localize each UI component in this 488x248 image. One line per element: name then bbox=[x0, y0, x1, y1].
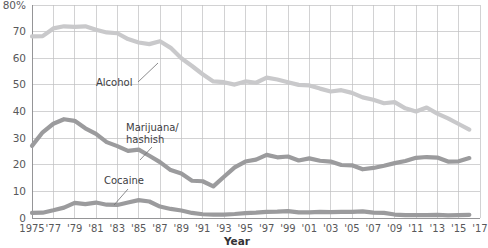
y-axis-tick-labels: 01020304050607080% bbox=[3, 0, 26, 224]
x-tick-label: '83 bbox=[110, 223, 125, 234]
leader-line bbox=[138, 63, 158, 82]
x-tick-label: '11 bbox=[408, 223, 423, 234]
x-tick-label: 1975 bbox=[19, 223, 44, 234]
y-tick-label: 80% bbox=[3, 0, 26, 11]
x-tick-label: '01 bbox=[302, 223, 317, 234]
y-tick-label: 40 bbox=[13, 105, 26, 117]
y-tick-label: 30 bbox=[13, 132, 26, 144]
y-tick-label: 70 bbox=[13, 25, 26, 37]
y-tick-label: 20 bbox=[13, 158, 26, 170]
x-tick-label: '87 bbox=[152, 223, 167, 234]
x-tick-label: '89 bbox=[174, 223, 189, 234]
y-tick-label: 60 bbox=[13, 52, 26, 64]
x-tick-label: '95 bbox=[238, 223, 253, 234]
x-tick-label: '97 bbox=[259, 223, 274, 234]
y-tick-label: 0 bbox=[19, 212, 26, 224]
x-tick-label: '09 bbox=[387, 223, 402, 234]
line-chart: 01020304050607080% 1975'77'79'81'83'85'8… bbox=[0, 0, 488, 248]
x-tick-label: '05 bbox=[344, 223, 359, 234]
y-tick-label: 50 bbox=[13, 78, 26, 90]
data-series-group bbox=[32, 26, 469, 215]
x-tick-label: '17 bbox=[472, 223, 487, 234]
series-line-cocaine bbox=[32, 200, 469, 215]
series-label-cocaine: Cocaine bbox=[104, 175, 144, 186]
x-tick-label: '81 bbox=[88, 223, 103, 234]
x-tick-label: '13 bbox=[430, 223, 445, 234]
series-label-alcohol: Alcohol bbox=[96, 77, 132, 88]
x-tick-label: '77 bbox=[46, 223, 61, 234]
x-tick-label: '03 bbox=[323, 223, 338, 234]
y-tick-label: 10 bbox=[13, 185, 26, 197]
series-line-marijuana-hashish bbox=[32, 119, 469, 186]
x-tick-label: '99 bbox=[280, 223, 295, 234]
series-annotations: AlcoholMarijuana/hashishCocaine bbox=[96, 63, 179, 205]
series-label-marijuana-hashish: Marijuana/ bbox=[126, 122, 179, 133]
x-tick-label: '85 bbox=[131, 223, 146, 234]
x-tick-label: '79 bbox=[67, 223, 82, 234]
x-tick-label: '91 bbox=[195, 223, 210, 234]
x-axis-title: Year bbox=[223, 235, 251, 247]
x-tick-label: '15 bbox=[451, 223, 466, 234]
chart-root: 01020304050607080% 1975'77'79'81'83'85'8… bbox=[0, 0, 488, 248]
series-label-marijuana-hashish-line2: hashish bbox=[126, 134, 164, 145]
x-tick-label: '07 bbox=[366, 223, 381, 234]
x-tick-label: '93 bbox=[216, 223, 231, 234]
x-axis-tick-labels: 1975'77'79'81'83'85'87'89'91'93'95'97'99… bbox=[19, 223, 487, 234]
